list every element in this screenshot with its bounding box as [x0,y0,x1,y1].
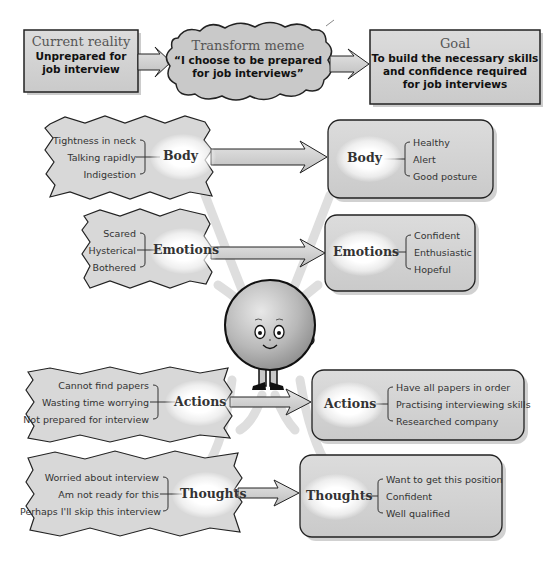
list-item: Perhaps I'll skip this interview [20,503,159,520]
current-reality-line: job interview [24,63,138,76]
current-thoughts-items: Worried about interview Am not ready for… [20,469,159,520]
arrow-thoughts [238,480,299,506]
transform-meme-line: for job interviews” [168,67,328,80]
list-item: Worried about interview [20,469,159,486]
goal-line: and confidence required [370,65,540,78]
list-item: Bothered [60,259,136,276]
current-reality: Current reality Unprepared for job inter… [24,34,138,76]
desired-body-items: Healthy Alert Good posture [413,134,477,185]
list-item: Good posture [413,168,477,185]
list-item: Talking rapidly [40,149,136,166]
current-emotions-items: Scared Hysterical Bothered [60,225,136,276]
list-item: Well qualified [386,505,503,522]
list-item: Have all papers in order [396,379,531,396]
current-thoughts-label: Thoughts [180,486,246,501]
list-item: Confident [414,227,472,244]
goal-line: for job interviews [370,78,540,91]
list-item: Want to get this position [386,471,503,488]
goal-title: Goal [370,36,540,52]
list-item: Hysterical [60,242,136,259]
transform-meme-line: “I choose to be prepared [168,54,328,67]
list-item: Confident [386,488,503,505]
arrow-current-to-meme [138,47,171,77]
arrow-body [211,141,327,173]
current-body-items: Tightness in neck Talking rapidly Indige… [40,132,136,183]
list-item: Healthy [413,134,477,151]
smiling-round-character-icon [225,280,315,390]
desired-emotions-items: Confident Enthusiastic Hopeful [414,227,472,278]
desired-body-label: Body [347,150,382,165]
current-reality-line: Unprepared for [24,50,138,63]
list-item: Wasting time worrying [20,394,149,411]
current-reality-title: Current reality [24,34,138,50]
list-item: Cannot find papers [20,377,149,394]
current-body-label: Body [163,148,198,163]
list-item: Alert [413,151,477,168]
list-item: Indigestion [40,166,136,183]
list-item: Not prepared for interview [20,411,149,428]
current-actions-label: Actions [174,394,226,409]
list-item: Hopeful [414,261,472,278]
desired-actions-items: Have all papers in order Practising inte… [396,379,531,430]
list-item: Practising interviewing skills [396,396,531,413]
list-item: Researched company [396,413,531,430]
list-item: Scared [60,225,136,242]
arrow-meme-to-goal [330,49,369,79]
current-emotions-label: Emotions [153,242,219,257]
list-item: Tightness in neck [40,132,136,149]
current-actions-items: Cannot find papers Wasting time worrying… [20,377,149,428]
transform-meme: Transform meme “I choose to be prepared … [168,38,328,80]
desired-thoughts-label: Thoughts [306,488,372,503]
list-item: Am not ready for this [20,486,159,503]
desired-thoughts-items: Want to get this position Confident Well… [386,471,503,522]
desired-actions-label: Actions [324,396,376,411]
list-item: Enthusiastic [414,244,472,261]
desired-emotions-label: Emotions [333,244,399,259]
goal-line: To build the necessary skills [370,52,540,65]
transform-meme-title: Transform meme [168,38,328,54]
goal: Goal To build the necessary skills and c… [370,36,540,91]
